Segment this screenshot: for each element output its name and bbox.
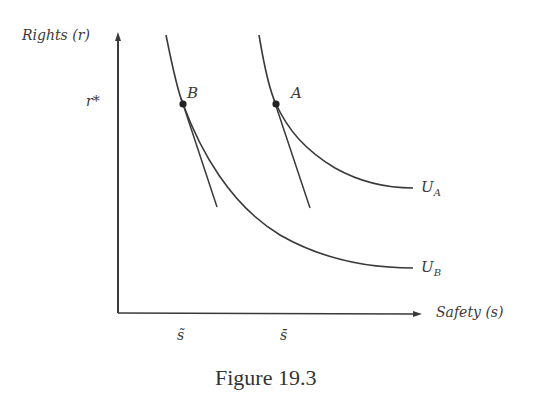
y-axis-label: Rights (r) — [22, 27, 90, 43]
x-axis-arrow-icon — [413, 311, 422, 317]
x-tick-s-bar: s̄ — [280, 327, 287, 343]
curve-label-u-b-name: U — [421, 258, 434, 276]
point-b — [179, 100, 186, 107]
y-tick-r-star: r* — [86, 93, 100, 109]
curve-label-u-a-name: U — [421, 178, 434, 196]
point-label-b: B — [187, 84, 198, 102]
tangent-line-b — [181, 98, 217, 207]
point-a — [272, 100, 279, 107]
curve-label-u-b: UB — [421, 258, 441, 278]
figure-caption: Figure 19.3 — [215, 365, 316, 391]
curve-label-u-a: UA — [421, 178, 441, 198]
x-axis — [118, 313, 416, 314]
tangent-line-a — [274, 100, 310, 208]
curve-label-u-b-sub: B — [434, 267, 441, 278]
point-label-a: A — [291, 84, 302, 102]
curve-u-a — [259, 35, 413, 188]
x-axis-label: Safety (s) — [436, 304, 504, 320]
curve-label-u-a-sub: A — [434, 187, 441, 198]
x-tick-s-tilde: s̃ — [177, 327, 184, 343]
y-axis-arrow-icon — [115, 32, 121, 41]
curve-u-b — [166, 35, 413, 268]
diagram-canvas — [0, 0, 535, 407]
